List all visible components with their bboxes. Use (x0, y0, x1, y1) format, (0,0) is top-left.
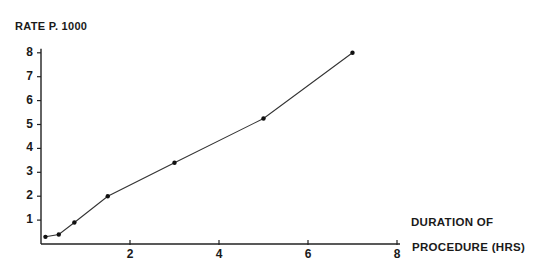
data-point (261, 116, 265, 120)
data-point (57, 232, 61, 236)
data-point (72, 220, 76, 224)
axes (37, 49, 400, 245)
data-point (43, 235, 47, 239)
line-chart (0, 0, 545, 276)
data-point (106, 194, 110, 198)
series-line (45, 53, 352, 237)
data-series (43, 51, 354, 239)
data-point (350, 51, 354, 55)
data-point (172, 161, 176, 165)
